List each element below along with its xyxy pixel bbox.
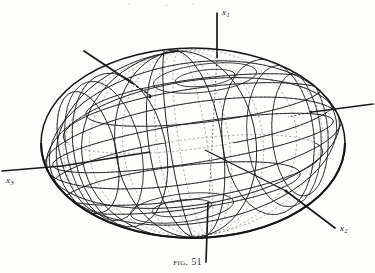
axis-x2-lower-right-segment — [286, 191, 335, 228]
axis-label-x1-subscript: 1 — [227, 11, 230, 18]
axis-x1b-hidden-segment — [288, 112, 312, 117]
hidden-lines-family-b — [46, 31, 336, 255]
umbilic-markers — [149, 96, 312, 205]
ellipsoid-diagram — [0, 0, 375, 273]
silhouette-outline — [41, 48, 345, 238]
scan-artifact-speck — [165, 4, 168, 7]
figure-caption-prefix: Fig. — [173, 256, 188, 267]
figure-container: x1 x2 x3 Fig.51 — [0, 0, 375, 273]
umbilic-point-bottom — [207, 202, 209, 204]
axis-x1b-right-segment — [312, 104, 373, 112]
axis-label-x2-subscript: 2 — [345, 227, 348, 234]
axis-x1-lower-segment — [206, 203, 208, 262]
umbilic-point-upper-left — [149, 96, 152, 99]
umbilic-point-right — [310, 111, 312, 113]
curvature-net-hidden — [37, 31, 349, 255]
scan-artifact-speck — [192, 3, 194, 5]
scan-artifact-speck — [128, 3, 130, 5]
umbilic-point-lower-right — [285, 190, 288, 193]
axis-label-x3-subscript: 3 — [11, 179, 14, 186]
axis-label-x1: x1 — [222, 8, 230, 17]
axis-diagonal-upper-left-segment — [84, 51, 132, 83]
axis-label-x1-letter: x — [222, 7, 226, 17]
ellipsoid-silhouette — [41, 48, 345, 238]
axis-label-x3-letter: x — [6, 175, 10, 185]
curvature-net-front-meridians — [42, 39, 332, 256]
axis-label-x3: x3 — [6, 176, 14, 185]
figure-caption-number: 51 — [192, 257, 202, 267]
axis-label-x2: x2 — [340, 224, 348, 233]
figure-caption: Fig.51 — [0, 256, 375, 267]
axis-label-x2-letter: x — [340, 223, 344, 233]
